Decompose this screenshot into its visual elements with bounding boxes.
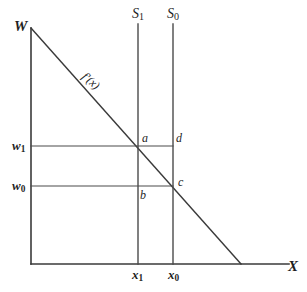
quantity-label-x1: x1 bbox=[132, 268, 143, 283]
supply-label-s1-base: S bbox=[132, 6, 139, 21]
wage-label-w0: w0 bbox=[12, 179, 25, 194]
wage-label-w1-base: w bbox=[12, 138, 21, 153]
economics-diagram: W X S1 S0 f'(x) w1 w0 x1 x0 a b c d bbox=[0, 0, 307, 292]
supply-label-s1: S1 bbox=[132, 7, 144, 22]
x-axis-label: X bbox=[288, 259, 298, 274]
supply-label-s0-subscript: 0 bbox=[174, 11, 179, 22]
quantity-label-x0-subscript: 0 bbox=[175, 273, 180, 283]
y-axis-label: W bbox=[14, 19, 27, 34]
supply-label-s1-subscript: 1 bbox=[139, 11, 144, 22]
supply-label-s0-base: S bbox=[167, 6, 174, 21]
supply-label-s0: S0 bbox=[167, 7, 179, 22]
point-label-a: a bbox=[142, 132, 148, 144]
wage-label-w0-base: w bbox=[12, 178, 21, 193]
quantity-label-x1-subscript: 1 bbox=[139, 273, 144, 283]
wage-label-w1: w1 bbox=[12, 139, 25, 154]
wage-label-w1-subscript: 1 bbox=[21, 144, 26, 154]
point-label-d: d bbox=[176, 132, 182, 144]
wage-label-w0-subscript: 0 bbox=[21, 184, 26, 194]
point-label-b: b bbox=[140, 189, 146, 201]
point-label-c: c bbox=[178, 176, 183, 188]
quantity-label-x0: x0 bbox=[168, 268, 179, 283]
diagram-canvas bbox=[0, 0, 307, 292]
